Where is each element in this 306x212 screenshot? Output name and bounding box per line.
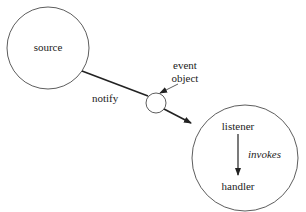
event-object-label-line2: object (172, 72, 199, 84)
event-object-pointer (160, 84, 178, 93)
event-object-node (146, 93, 166, 113)
notify-label: notify (92, 92, 119, 104)
invokes-label: invokes (248, 148, 281, 160)
event-diagram: source notify event object listener invo… (0, 0, 306, 212)
listener-label: listener (222, 120, 255, 132)
handler-label: handler (222, 180, 255, 192)
deliver-edge (164, 109, 191, 123)
source-label: source (34, 41, 63, 53)
event-object-label-line1: event (173, 59, 197, 71)
